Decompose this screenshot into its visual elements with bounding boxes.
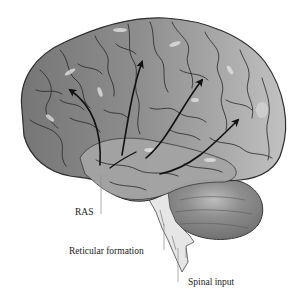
brain-diagram: RAS Reticular formation Spinal input [0, 0, 300, 297]
label-reticular-formation: Reticular formation [69, 247, 144, 257]
label-ras: RAS [75, 208, 93, 218]
cerebrum [21, 18, 285, 201]
label-spinal-input: Spinal input [188, 278, 234, 288]
